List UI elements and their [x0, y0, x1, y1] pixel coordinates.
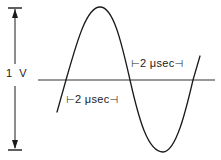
- right-bracket-icon: ⊣: [174, 58, 183, 69]
- waveform-graphic: [0, 0, 221, 160]
- left-bracket-icon: ⊢: [66, 94, 75, 105]
- amplitude-label: 1 V: [6, 68, 29, 79]
- right-bracket-icon: ⊣: [109, 94, 118, 105]
- upper-time-span-label: ⊢2 μsec⊣: [131, 58, 183, 69]
- lower-time-span-label: ⊢2 μsec⊣: [66, 94, 118, 105]
- sine-wave-diagram: 1 V ⊢2 μsec⊣ ⊢2 μsec⊣: [0, 0, 221, 160]
- upper-time-text: 2 μsec: [140, 57, 174, 69]
- left-bracket-icon: ⊢: [131, 58, 140, 69]
- amplitude-arrow: [8, 8, 22, 150]
- lower-time-text: 2 μsec: [75, 93, 109, 105]
